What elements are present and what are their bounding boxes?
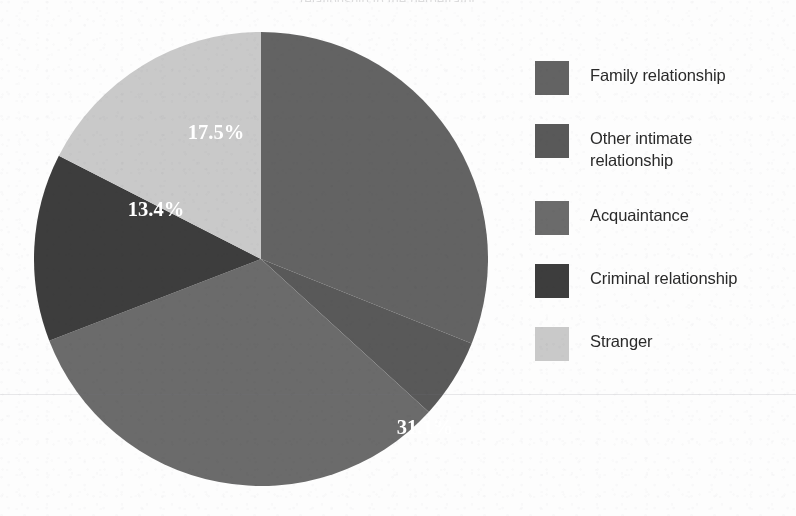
chart-legend: Family relationship Other intimate relat… <box>535 60 787 389</box>
pie-slice-value-label: 17.5% <box>188 121 244 143</box>
legend-label-criminal-relationship: Criminal relationship <box>590 263 737 290</box>
pie-slice-value-label: 13.4% <box>128 198 184 220</box>
legend-label-family-relationship: Family relationship <box>590 60 726 87</box>
legend-swatch-criminal-relationship <box>535 264 569 298</box>
legend-label-acquaintance: Acquaintance <box>590 200 689 227</box>
legend-label-other-intimate-relationship: Other intimate relationship <box>590 123 692 172</box>
legend-swatch-family-relationship <box>535 61 569 95</box>
legend-item-other-intimate-relationship[interactable]: Other intimate relationship <box>535 123 787 172</box>
legend-swatch-acquaintance <box>535 201 569 235</box>
legend-label-stranger: Stranger <box>590 326 653 353</box>
pie-slice-value-label: 31.1% <box>397 416 453 438</box>
pie-chart-svg: 31.1%5.7%32.413.4%17.5% <box>33 31 489 488</box>
legend-swatch-stranger <box>535 327 569 361</box>
legend-item-stranger[interactable]: Stranger <box>535 326 787 361</box>
cut-off-title: relationship to the perpetrator <box>300 0 560 2</box>
legend-item-acquaintance[interactable]: Acquaintance <box>535 200 787 235</box>
pie-chart: 31.1%5.7%32.413.4%17.5% <box>33 31 489 488</box>
legend-item-criminal-relationship[interactable]: Criminal relationship <box>535 263 787 298</box>
legend-swatch-other-intimate-relationship <box>535 124 569 158</box>
legend-item-family-relationship[interactable]: Family relationship <box>535 60 787 95</box>
figure-page: relationship to the perpetrator 31.1%5.7… <box>0 0 796 516</box>
